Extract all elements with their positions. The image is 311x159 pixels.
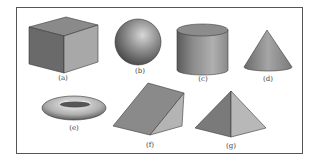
wedge-label: (f) [146, 141, 154, 149]
torus-shape [42, 96, 106, 120]
cone-label: (d) [263, 75, 273, 83]
cube-label: (a) [58, 74, 68, 82]
cylinder-label: (c) [198, 75, 208, 83]
geometric-shapes-figure: (a) (b) (c) (d) (e) (f) (g) [0, 0, 311, 159]
sphere-label: (b) [135, 67, 145, 75]
torus-label: (e) [69, 124, 79, 132]
sphere-shape [115, 19, 161, 65]
cylinder-shape [177, 24, 228, 75]
pyramid-label: (g) [226, 142, 236, 150]
cube-shape [29, 17, 98, 73]
